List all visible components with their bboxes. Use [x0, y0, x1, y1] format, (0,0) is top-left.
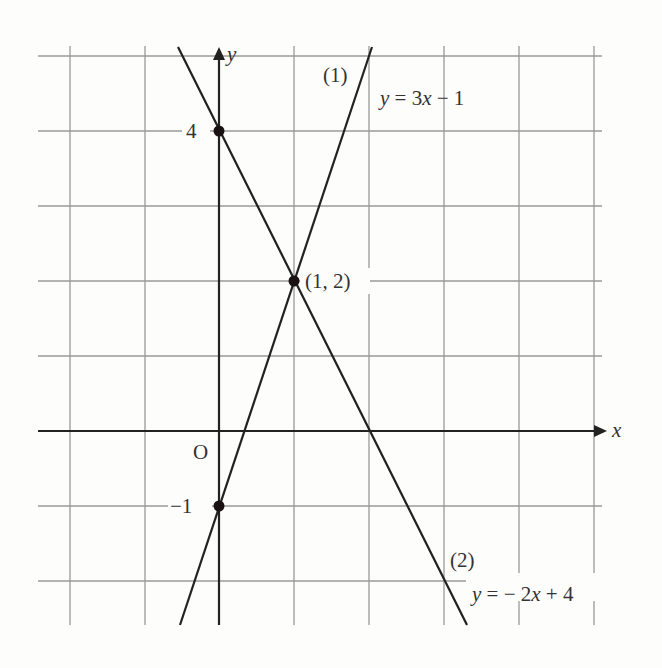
line-2-eq-mid: = − 2: [481, 582, 531, 606]
x-axis-label: x: [612, 420, 621, 441]
point-y-intercept-neg1: [214, 501, 225, 512]
x-axis-arrow-icon: [594, 425, 607, 437]
line-1-eq-mid: = 3: [389, 86, 422, 110]
tick-label-neg1: −1: [170, 496, 192, 517]
coordinate-plane: [0, 0, 662, 668]
line-2-equation: y = − 2x + 4: [472, 584, 573, 605]
tick-label-4: 4: [186, 121, 197, 142]
grid: [38, 46, 602, 625]
line-1-eq-tail: − 1: [432, 86, 465, 110]
line-1-eq-y: y: [380, 86, 389, 110]
line-1-tag: (1): [323, 65, 348, 86]
line-2-tag: (2): [450, 550, 475, 571]
points: [214, 126, 300, 512]
line-2-eq-x: x: [531, 582, 540, 606]
y-axis-label: y: [227, 44, 236, 65]
origin-label: O: [193, 442, 208, 463]
line-1-eq-x: x: [422, 86, 431, 110]
label-masks: [168, 118, 606, 601]
line-1-equation: y = 3x − 1: [380, 88, 464, 109]
line-2-eq-y: y: [472, 582, 481, 606]
graph-figure: y x O 4 −1 (1, 2) (1) y = 3x − 1 (2) y =…: [0, 0, 662, 668]
y-axis-arrow-icon: [213, 47, 225, 60]
line-2-eq-tail: + 4: [541, 582, 574, 606]
point-intersection: [289, 276, 300, 287]
point-y-intercept-4: [214, 126, 225, 137]
intersection-label: (1, 2): [305, 271, 351, 292]
